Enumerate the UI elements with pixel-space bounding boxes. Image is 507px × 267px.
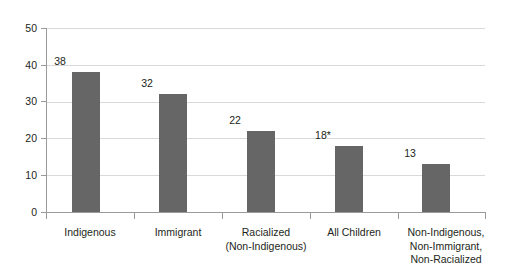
y-tick-20 (41, 138, 46, 139)
x-tick-4 (398, 213, 399, 219)
y-tick-30 (41, 101, 46, 102)
y-tick-label-10: 10 (9, 170, 37, 180)
bar-racialized (247, 131, 275, 212)
x-category-label-line: Indigenous (46, 226, 134, 240)
bar-immigrant (159, 94, 187, 212)
gridline-30 (46, 102, 485, 103)
x-category-label-all-children: All Children (310, 226, 398, 240)
x-category-label-line: Non-Indigenous, (396, 226, 496, 240)
y-tick-50 (41, 28, 46, 29)
y-tick-label-0: 0 (9, 207, 37, 217)
y-tick-label-20-wrap: 20 (0, 133, 37, 143)
x-category-label-line: Immigrant (134, 226, 222, 240)
x-category-label-line: Non-Racialized (396, 253, 496, 267)
bar-value-immigrant: 32 (129, 78, 165, 89)
x-category-label-indigenous: Indigenous (46, 226, 134, 240)
x-category-label-racialized: Racialized (Non-Indigenous) (214, 226, 318, 253)
gridline-50 (46, 28, 485, 29)
x-tick-0 (46, 213, 47, 219)
y-tick-label-30-wrap: 30 (0, 96, 37, 106)
y-tick-label-10-wrap: 10 (0, 170, 37, 180)
y-tick-label-40: 40 (9, 60, 37, 70)
x-category-label-immigrant: Immigrant (134, 226, 222, 240)
plot-area (46, 28, 485, 212)
bar-indigenous (72, 72, 100, 212)
bar-value-non-indigenous-non-immigrant-non-racialized: 13 (392, 148, 428, 159)
x-axis-line (46, 212, 486, 213)
bar-value-all-children: 18* (305, 130, 341, 141)
y-tick-label-0-wrap: 0 (0, 207, 37, 217)
x-tick-1 (134, 213, 135, 219)
x-tick-3 (310, 213, 311, 219)
bar-non-indigenous-non-immigrant-non-racialized (422, 164, 450, 212)
x-tick-2 (222, 213, 223, 219)
y-tick-10 (41, 175, 46, 176)
bar-all-children (335, 146, 363, 212)
x-category-label-line: Racialized (214, 226, 318, 240)
y-tick-label-40-wrap: 40 (0, 60, 37, 70)
y-tick-label-20: 20 (9, 133, 37, 143)
x-tick-5 (485, 213, 486, 219)
y-tick-label-50: 50 (9, 23, 37, 33)
x-category-label-line: Non-Immigrant, (396, 240, 496, 254)
y-tick-label-50-wrap: 50 (0, 23, 37, 33)
bar-value-racialized: 22 (217, 115, 253, 126)
bar-value-indigenous: 38 (42, 56, 78, 67)
x-category-label-line: All Children (310, 226, 398, 240)
gridline-40 (46, 65, 485, 66)
x-category-label-line: (Non-Indigenous) (214, 240, 318, 254)
y-tick-label-30: 30 (9, 96, 37, 106)
x-category-label-non-indigenous-non-immigrant-non-racialized: Non-Indigenous, Non-Immigrant, Non-Racia… (396, 226, 496, 267)
